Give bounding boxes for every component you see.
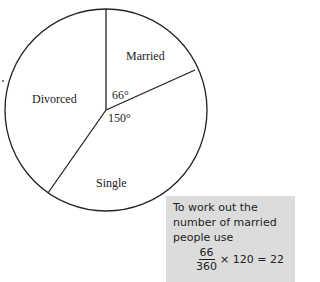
angle-single-label: 150°: [108, 111, 131, 126]
married-label: Married: [126, 49, 165, 64]
note-line-3: people use: [173, 230, 295, 245]
divorced-label: Divorced: [32, 92, 77, 107]
formula-note-box: To work out the number of married people…: [166, 196, 295, 282]
fraction-numerator: 66: [199, 246, 215, 260]
note-line-1: To work out the: [173, 200, 295, 215]
note-line-2: number of married: [173, 215, 295, 230]
fraction-denominator: 360: [196, 260, 217, 273]
single-label: Single: [96, 176, 127, 191]
fraction: 66 360: [196, 246, 217, 273]
angle-married-label: 66°: [112, 88, 129, 103]
formula-rest: × 120 = 22: [220, 252, 284, 267]
formula: 66 360 × 120 = 22: [196, 246, 284, 273]
